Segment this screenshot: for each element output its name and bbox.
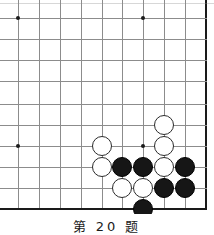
white-stone[interactable] [92, 136, 112, 156]
black-stone[interactable] [175, 178, 195, 198]
grid-line-horizontal [0, 60, 207, 61]
grid-line-horizontal [0, 18, 207, 19]
white-stone[interactable] [154, 115, 174, 135]
grid-line-horizontal [0, 39, 207, 40]
go-board[interactable] [0, 0, 214, 214]
grid-line-horizontal [0, 208, 207, 210]
grid-line-vertical [102, 0, 103, 210]
star-point [16, 16, 20, 20]
white-stone[interactable] [154, 136, 174, 156]
black-stone[interactable] [154, 178, 174, 198]
star-point [141, 16, 145, 20]
black-stone[interactable] [133, 157, 153, 177]
white-stone[interactable] [92, 157, 112, 177]
black-stone[interactable] [133, 199, 153, 214]
go-problem-figure: 第 20 题 [0, 0, 214, 235]
grid-line-horizontal [0, 104, 207, 105]
figure-caption: 第 20 题 [0, 219, 214, 235]
black-stone[interactable] [112, 157, 132, 177]
black-stone[interactable] [175, 157, 195, 177]
grid-line-horizontal [0, 81, 207, 82]
grid-line-vertical [18, 0, 19, 210]
grid-line-vertical [60, 0, 61, 210]
grid-line-horizontal [0, 3, 214, 4]
grid-line-vertical [39, 0, 40, 210]
white-stone[interactable] [154, 157, 174, 177]
grid-line-vertical [81, 0, 82, 210]
star-point [16, 144, 20, 148]
grid-line-vertical [205, 0, 207, 210]
grid-line-horizontal [0, 125, 207, 126]
white-stone[interactable] [133, 178, 153, 198]
white-stone[interactable] [112, 178, 132, 198]
star-point [141, 144, 145, 148]
